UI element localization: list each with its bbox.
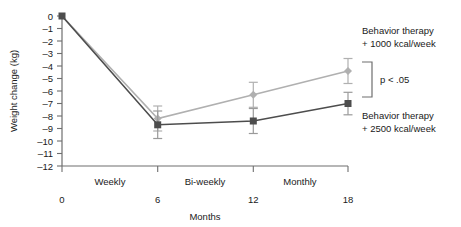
series-1-polyline — [62, 16, 348, 119]
series-1-annotation-line1: Behavior therapy — [362, 25, 434, 36]
y-tick-label: –2 — [42, 36, 53, 47]
square-marker — [345, 100, 352, 107]
series-2-annotation-line2: + 2500 kcal/week — [362, 123, 436, 134]
weight-change-line-chart: 0 –1 –2 –3 –4 –5 –6 –7 –8 –9 –10 –11 –12… — [0, 0, 461, 227]
x-tick-label: 12 — [248, 194, 259, 205]
y-tick-label: –7 — [42, 98, 53, 109]
series-2-polyline — [62, 16, 348, 125]
y-axis-tick-labels: 0 –1 –2 –3 –4 –5 –6 –7 –8 –9 –10 –11 –12 — [37, 11, 53, 172]
phase-label-biweekly: Bi-weekly — [185, 176, 226, 187]
square-marker-origin — [59, 13, 66, 20]
y-tick-label: –4 — [42, 61, 53, 72]
x-tick-label: 18 — [343, 194, 354, 205]
chart-figure: 0 –1 –2 –3 –4 –5 –6 –7 –8 –9 –10 –11 –12… — [0, 0, 461, 227]
diamond-marker — [344, 67, 352, 75]
y-tick-label: –1 — [42, 23, 53, 34]
series-line-2500-kcal — [62, 16, 348, 125]
square-marker — [250, 118, 257, 125]
y-axis-title: Weight change (kg) — [8, 50, 19, 132]
y-tick-label: –10 — [37, 136, 53, 147]
axis-lines — [62, 16, 348, 166]
series-2-annotation: Behavior therapy + 2500 kcal/week — [362, 110, 436, 134]
y-axis-ticks — [57, 16, 62, 166]
y-tick-label: 0 — [48, 11, 53, 22]
square-marker — [154, 121, 161, 128]
significance-bracket — [362, 62, 372, 97]
y-tick-label: –3 — [42, 48, 53, 59]
series-line-1000-kcal — [62, 16, 348, 119]
series-1-annotation: Behavior therapy + 1000 kcal/week — [362, 25, 436, 49]
y-tick-label: –6 — [42, 86, 53, 97]
x-axis-ticks — [62, 166, 348, 172]
x-axis-tick-labels: 0 6 12 18 — [59, 194, 353, 205]
x-tick-label: 0 — [59, 194, 64, 205]
significance-label: p < .05 — [380, 74, 409, 85]
phase-label-monthly: Monthly — [283, 176, 317, 187]
y-tick-label: –8 — [42, 111, 53, 122]
bracket-shape — [362, 62, 372, 97]
x-axis-phase-labels: Weekly Bi-weekly Monthly — [95, 176, 317, 187]
x-axis-title: Months — [189, 211, 220, 222]
y-tick-label: –9 — [42, 123, 53, 134]
y-tick-label: –5 — [42, 73, 53, 84]
phase-label-weekly: Weekly — [95, 176, 126, 187]
diamond-marker — [249, 91, 257, 99]
y-tick-label: –11 — [38, 148, 53, 159]
series-1-annotation-line2: + 1000 kcal/week — [362, 38, 436, 49]
series-2-annotation-line1: Behavior therapy — [362, 110, 434, 121]
x-tick-label: 6 — [155, 194, 160, 205]
y-tick-label: –12 — [37, 161, 53, 172]
